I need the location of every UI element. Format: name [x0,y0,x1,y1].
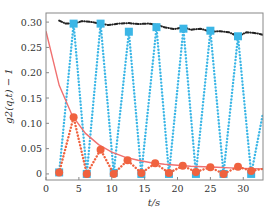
orange-circle-marker [137,169,145,177]
x-tick-label: 5 [76,183,82,194]
orange-circle-marker [220,170,228,178]
y-tick-label: 0.05 [21,143,42,154]
y-axis: 00.050.100.150.200.250.30 [21,17,49,180]
blue-square-marker [234,32,242,40]
x-tick-label: 25 [204,183,216,194]
orange-circle-marker [83,170,91,178]
orange-circle-marker [234,163,242,171]
blue-square-marker [125,28,133,36]
x-axis-label: t/s [148,197,161,208]
orange-circle-marker [179,162,187,170]
envelope-dash-dot-line [59,21,263,37]
y-tick-label: 0.20 [21,67,42,78]
orange-circle-marker [70,113,78,121]
blue-square-marker [152,23,160,31]
blue-square-marker [206,27,214,35]
blue-square-marker [179,25,187,33]
y-tick-label: 0.25 [21,42,42,53]
x-tick-label: 0 [43,183,49,194]
y-axis-label: g2(q,t) − 1 [3,68,14,123]
y-tick-label: 0 [36,168,42,179]
x-tick-label: 15 [139,183,151,194]
y-tick-label: 0.30 [21,17,42,28]
orange-circle-marker [151,159,159,167]
orange-circle-marker [124,156,132,164]
orange-circle-marker [206,163,214,171]
blue-squares-dotted-line [59,24,263,174]
orange-circle-marker [192,168,200,176]
orange-circle-marker [165,169,173,177]
y-tick-label: 0.10 [21,118,42,129]
chart: 051015202530 00.050.100.150.200.250.30 t… [0,0,275,213]
blue-square-marker [70,20,78,28]
x-tick-label: 20 [171,183,183,194]
orange-circle-marker [110,170,118,178]
blue-square-marker [97,20,105,28]
orange-circle-marker [97,146,105,154]
x-tick-label: 30 [237,183,249,194]
y-tick-label: 0.15 [21,93,42,104]
orange-circle-marker [55,168,63,176]
orange-circle-marker [247,167,255,175]
x-tick-label: 10 [106,183,118,194]
plot-area [46,20,263,178]
